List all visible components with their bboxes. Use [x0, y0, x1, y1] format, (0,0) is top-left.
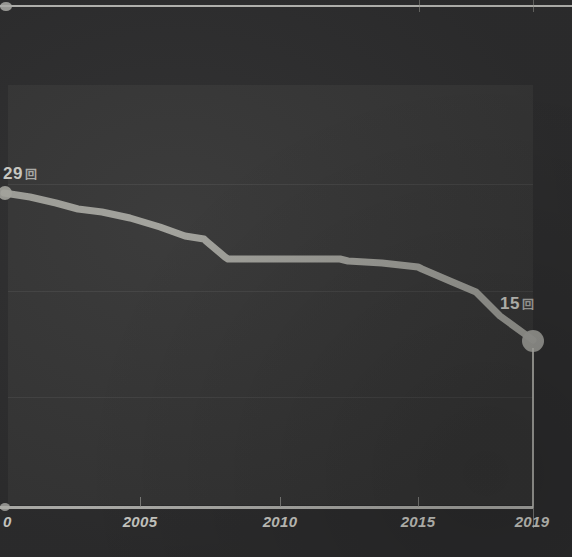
x-axis-label-2015: 2015: [401, 513, 436, 530]
x-axis-label-2010: 2010: [263, 513, 298, 530]
chart-screenshot: 29回 15回 0 2005 2010 2015 2019: [0, 0, 572, 557]
end-value-annotation: 15回: [500, 294, 534, 314]
start-value-annotation: 29回: [3, 164, 37, 184]
end-value-number: 15: [500, 294, 520, 313]
start-point-marker: [0, 186, 12, 200]
end-point-drop-line: [532, 348, 534, 508]
x-axis-label-2005: 2005: [123, 513, 158, 530]
x-axis-tick-2010: [280, 497, 281, 507]
end-value-unit: 回: [522, 298, 535, 312]
x-axis-tick-2015: [418, 497, 419, 507]
trend-polyline: [4, 193, 533, 340]
start-value-number: 29: [3, 164, 23, 183]
x-axis-label-2019: 2019: [515, 513, 550, 530]
x-axis-line: [0, 506, 533, 509]
line-series: [0, 0, 572, 557]
x-axis-tick-2005: [140, 497, 141, 507]
x-axis-label-0: 0: [3, 513, 12, 530]
x-axis-left-cap: [0, 503, 10, 511]
start-value-unit: 回: [25, 168, 38, 182]
